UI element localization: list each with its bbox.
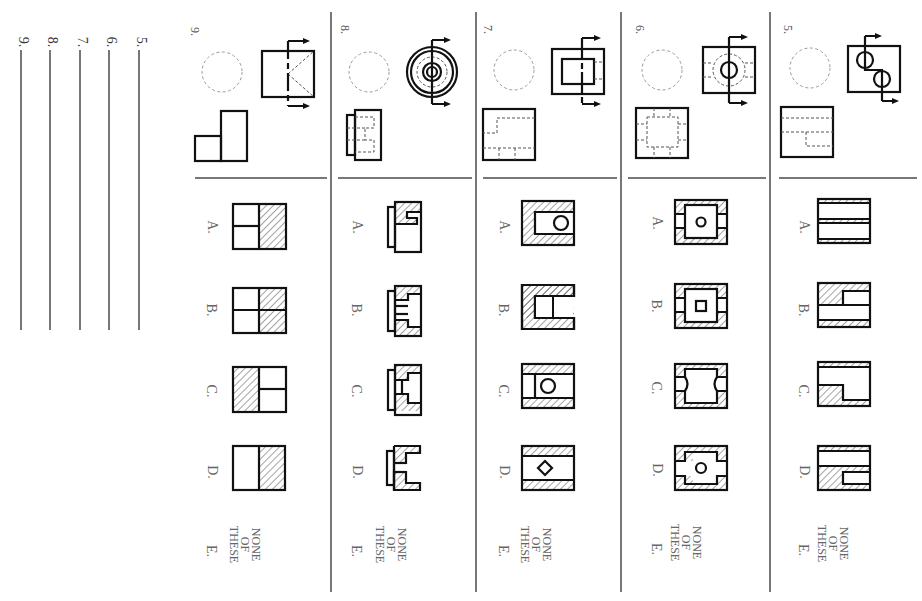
option-d-drawing[interactable]: [818, 446, 870, 490]
problem-9-option-drawings: [180, 178, 330, 478]
problem-7-option-drawings: [475, 178, 620, 478]
blank-label-5: 5.: [133, 37, 149, 48]
answer-line-9[interactable]: [20, 50, 22, 330]
none-of-these-label[interactable]: NONE OF THESE: [519, 525, 552, 565]
none-of-these-label[interactable]: NONE OF THESE: [228, 525, 261, 565]
option-c-drawing[interactable]: [522, 364, 574, 408]
option-b-drawing[interactable]: [233, 288, 286, 333]
option-b-drawing[interactable]: [818, 283, 870, 327]
none-of-these-label[interactable]: NONE OF THESE: [816, 524, 849, 564]
problem-6-given-views: [620, 0, 770, 178]
problem-5-given-views: [770, 0, 922, 178]
blank-label-6: 6.: [103, 37, 119, 48]
answer-line-6[interactable]: [108, 50, 110, 330]
blank-label-9: 9.: [15, 37, 31, 48]
option-b-drawing[interactable]: [675, 284, 727, 328]
problem-8-given-views: [330, 0, 475, 178]
option-d-drawing[interactable]: [522, 446, 574, 490]
blank-label-7: 7.: [74, 37, 90, 48]
none-of-these-label[interactable]: NONE OF THESE: [669, 523, 702, 563]
option-letter-e: E.: [495, 545, 511, 557]
option-d-drawing[interactable]: [387, 446, 420, 490]
problem-5-option-drawings: [770, 178, 922, 478]
option-letter-e: E.: [795, 544, 811, 556]
option-c-drawing[interactable]: [675, 364, 727, 408]
option-d-drawing[interactable]: [233, 446, 285, 490]
option-letter-e: E.: [648, 543, 664, 555]
blank-label-8: 8.: [44, 37, 60, 48]
option-d-drawing[interactable]: [675, 446, 727, 490]
option-a-drawing[interactable]: [233, 204, 286, 249]
answer-line-8[interactable]: [49, 50, 51, 330]
option-b-drawing[interactable]: [522, 285, 574, 329]
problem-6-option-drawings: [620, 178, 770, 478]
option-a-drawing[interactable]: [522, 201, 574, 245]
option-a-drawing[interactable]: [675, 200, 727, 244]
answer-line-5[interactable]: [138, 50, 140, 330]
option-a-drawing[interactable]: [818, 199, 870, 243]
option-c-drawing[interactable]: [233, 367, 286, 412]
problem-9-given-views: [180, 0, 330, 178]
option-letter-e: E.: [203, 545, 219, 557]
option-a-drawing[interactable]: [388, 202, 421, 252]
problem-8-option-drawings: [330, 178, 475, 478]
option-c-drawing[interactable]: [388, 365, 421, 415]
option-b-drawing[interactable]: [388, 286, 421, 336]
problem-7-given-views: [475, 0, 620, 178]
option-c-drawing[interactable]: [818, 362, 870, 406]
none-of-these-label[interactable]: NONE OF THESE: [374, 525, 407, 565]
answer-line-7[interactable]: [79, 50, 81, 330]
option-letter-e: E.: [348, 545, 364, 557]
